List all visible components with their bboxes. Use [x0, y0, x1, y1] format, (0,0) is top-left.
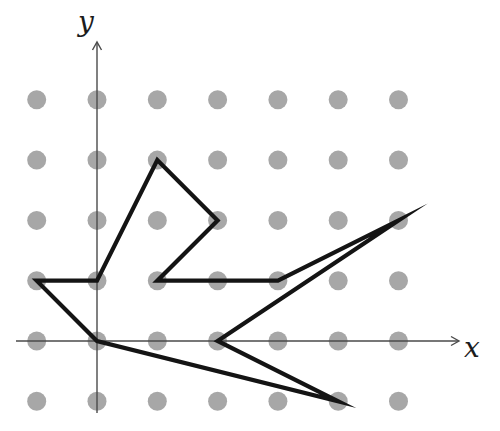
lattice-dot [329, 151, 348, 170]
x-axis-label: x [464, 331, 480, 364]
lattice-dot [329, 90, 348, 109]
lattice-dot [389, 271, 408, 290]
y-axis-label: y [76, 5, 95, 38]
lattice-dot [148, 211, 167, 230]
lattice-dot [389, 151, 408, 170]
lattice-dot [329, 271, 348, 290]
lattice-dot [329, 211, 348, 230]
lattice-dot [208, 151, 227, 170]
lattice-dot [27, 151, 46, 170]
lattice-dot [148, 90, 167, 109]
x-axis: x [16, 331, 480, 364]
lattice-dot [27, 90, 46, 109]
lattice-dot [148, 392, 167, 411]
lattice-dot [268, 211, 287, 230]
lattice-dot [27, 211, 46, 230]
y-axis: y [76, 5, 101, 413]
coordinate-plane: x y [0, 0, 500, 431]
lattice-dot [389, 90, 408, 109]
lattice-dot [208, 90, 227, 109]
lattice-dot [268, 151, 287, 170]
lattice-dot [27, 392, 46, 411]
lattice-dot [389, 392, 408, 411]
figure-page: x y [0, 0, 500, 431]
lattice-dot [268, 90, 287, 109]
lattice-dot [208, 392, 227, 411]
lattice-dot [268, 392, 287, 411]
